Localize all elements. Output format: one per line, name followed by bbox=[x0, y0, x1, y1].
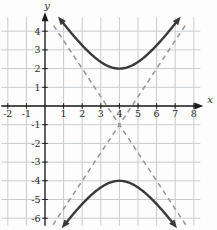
x-axis-label: x bbox=[207, 94, 213, 105]
x-tick-label: 2 bbox=[79, 108, 85, 119]
y-axis-label: y bbox=[43, 0, 50, 11]
y-tick-label: -4 bbox=[31, 175, 40, 186]
x-tick-label: 6 bbox=[154, 108, 160, 119]
x-tick-label: 1 bbox=[61, 108, 67, 119]
x-tick-label: 5 bbox=[135, 108, 141, 119]
x-tick-label: -2 bbox=[3, 108, 12, 119]
asymptote-line bbox=[52, 23, 186, 225]
y-axis-arrowhead bbox=[42, 12, 49, 21]
x-tick-label: 8 bbox=[191, 108, 197, 119]
asymptote-lines bbox=[52, 23, 186, 225]
y-tick-label: -5 bbox=[31, 194, 40, 205]
graph-canvas: -2-112345678-6-5-4-3-2-11234 x y bbox=[0, 0, 217, 230]
y-tick-label: 2 bbox=[34, 63, 40, 74]
x-tick-label: 3 bbox=[98, 108, 104, 119]
x-tick-label: -1 bbox=[22, 108, 31, 119]
y-tick-label: 1 bbox=[34, 82, 40, 93]
y-tick-label: -3 bbox=[31, 156, 40, 167]
y-tick-label: -6 bbox=[31, 213, 40, 224]
y-tick-label: -2 bbox=[31, 138, 40, 149]
y-tick-label: 3 bbox=[34, 44, 40, 55]
x-tick-label: 7 bbox=[172, 108, 178, 119]
hyperbola-graph-figure: -2-112345678-6-5-4-3-2-11234 x y bbox=[0, 0, 217, 230]
y-tick-label: 4 bbox=[34, 26, 40, 37]
x-tick-label: 4 bbox=[116, 108, 122, 119]
y-tick-label: -1 bbox=[31, 119, 40, 130]
